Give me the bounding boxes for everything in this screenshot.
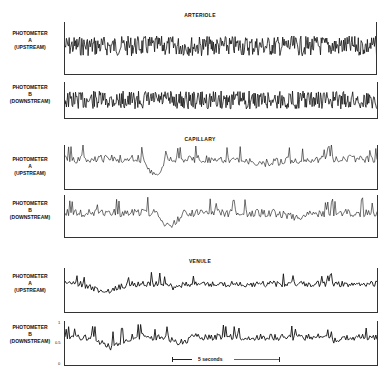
label-line: (UPSTREAM) bbox=[2, 44, 58, 51]
panel-label-capillary-a: PHOTOMETER A (UPSTREAM) bbox=[2, 156, 58, 177]
label-line: PHOTOMETER bbox=[2, 30, 58, 37]
label-line: B bbox=[2, 331, 58, 338]
trace-venule-a bbox=[65, 268, 377, 312]
axis-tick-top: 1 bbox=[58, 320, 60, 325]
label-line: (DOWNSTREAM) bbox=[2, 338, 58, 345]
label-line: B bbox=[2, 207, 58, 214]
section-title-venule: VENULE bbox=[170, 258, 230, 264]
label-line: (UPSTREAM) bbox=[2, 170, 58, 177]
label-line: A bbox=[2, 280, 58, 287]
trace-capillary-a bbox=[65, 145, 377, 189]
scale-bar: 5 seconds bbox=[172, 357, 280, 363]
trace-panel-arteriole-a bbox=[64, 22, 377, 75]
label-line: (UPSTREAM) bbox=[2, 287, 58, 294]
trace-panel-venule-a bbox=[64, 268, 378, 313]
panel-label-arteriole-a: PHOTOMETER A (UPSTREAM) bbox=[2, 30, 58, 51]
label-line: PHOTOMETER bbox=[2, 156, 58, 163]
trace-panel-capillary-a bbox=[64, 145, 378, 190]
label-line: (DOWNSTREAM) bbox=[2, 214, 58, 221]
trace-panel-capillary-b bbox=[64, 195, 378, 238]
trace-capillary-b bbox=[65, 195, 377, 237]
axis-tick-bottom: 0 bbox=[58, 361, 60, 366]
panel-label-venule-a: PHOTOMETER A (UPSTREAM) bbox=[2, 273, 58, 294]
section-title-arteriole: ARTERIOLE bbox=[170, 12, 230, 18]
label-line: PHOTOMETER bbox=[2, 273, 58, 280]
label-line: A bbox=[2, 37, 58, 44]
label-line: B bbox=[2, 91, 58, 98]
label-line: PHOTOMETER bbox=[2, 84, 58, 91]
trace-arteriole-a bbox=[65, 22, 377, 74]
axis-tick-mid: 0.5 bbox=[55, 340, 61, 345]
label-line: PHOTOMETER bbox=[2, 200, 58, 207]
panel-label-capillary-b: PHOTOMETER B (DOWNSTREAM) bbox=[2, 200, 58, 221]
scale-bar-label: 5 seconds bbox=[198, 356, 222, 362]
section-title-capillary: CAPILLARY bbox=[170, 136, 230, 142]
trace-arteriole-b bbox=[65, 82, 377, 118]
label-line: A bbox=[2, 163, 58, 170]
label-line: (DOWNSTREAM) bbox=[2, 98, 58, 105]
label-line: PHOTOMETER bbox=[2, 324, 58, 331]
trace-panel-arteriole-b bbox=[64, 82, 378, 119]
panel-label-arteriole-b: PHOTOMETER B (DOWNSTREAM) bbox=[2, 84, 58, 105]
panel-label-venule-b: PHOTOMETER B (DOWNSTREAM) bbox=[2, 324, 58, 345]
